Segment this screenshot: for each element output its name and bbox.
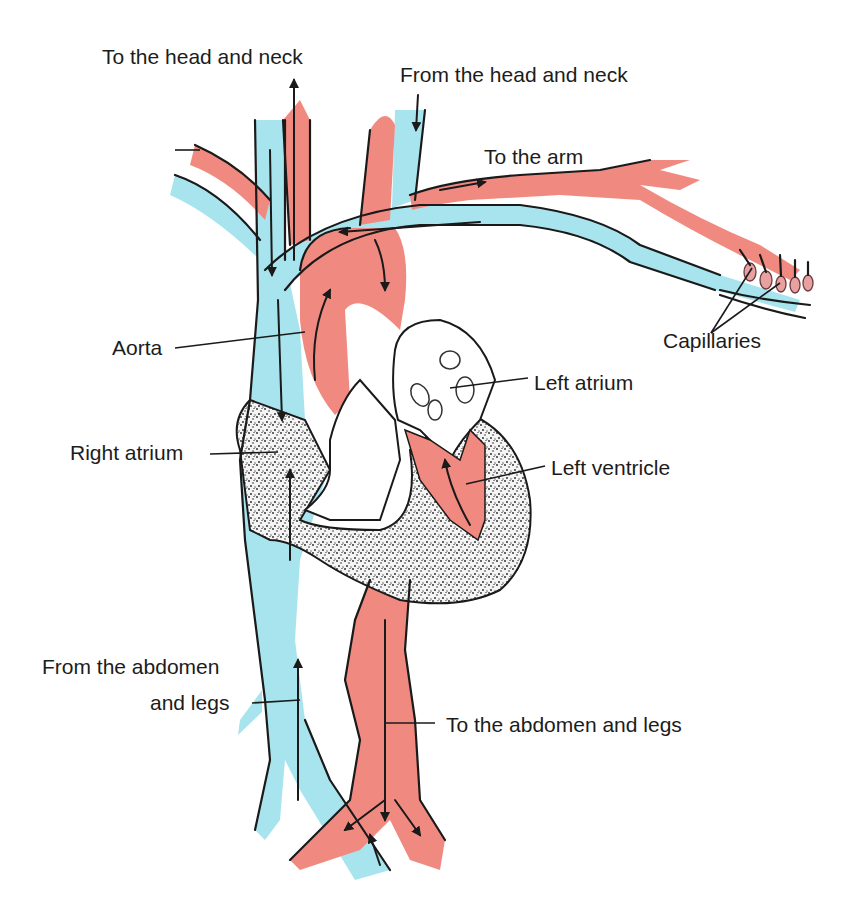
label-left-atrium: Left atrium (534, 372, 633, 393)
label-from-head-and-neck: From the head and neck (400, 64, 628, 85)
label-from-abdomen-line1: From the abdomen (42, 656, 219, 677)
label-to-abdomen-and-legs: To the abdomen and legs (446, 714, 682, 735)
descending-aorta (290, 580, 445, 870)
label-left-ventricle: Left ventricle (551, 457, 670, 478)
label-to-head-and-neck: To the head and neck (102, 46, 303, 67)
iliac-vein (238, 690, 262, 735)
label-right-atrium: Right atrium (70, 442, 183, 463)
label-capillaries: Capillaries (663, 330, 761, 351)
carotid-artery-left (283, 100, 310, 245)
label-from-abdomen-line2: and legs (150, 692, 229, 713)
label-to-the-arm: To the arm (484, 146, 583, 167)
label-aorta: Aorta (112, 337, 162, 358)
